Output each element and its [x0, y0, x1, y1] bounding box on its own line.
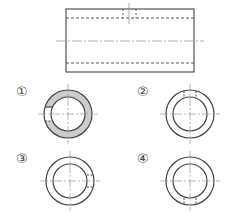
option-3-label: ③ — [16, 151, 28, 166]
option-4[interactable]: ④ — [137, 151, 220, 211]
front-view-outline — [66, 9, 194, 72]
option-3[interactable]: ③ — [16, 151, 100, 211]
option-1[interactable]: ① — [16, 84, 98, 144]
option-2-label: ② — [137, 84, 149, 99]
drawing-canvas: ① ② ③ ④ — [0, 0, 238, 216]
option-2[interactable]: ② — [137, 84, 220, 144]
option-1-label: ① — [16, 84, 28, 99]
front-view — [56, 3, 204, 72]
option-4-label: ④ — [137, 151, 149, 166]
